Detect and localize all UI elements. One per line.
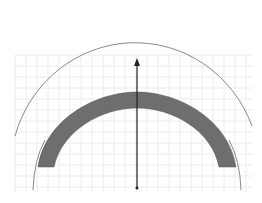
arch-diagram <box>0 0 262 203</box>
axis-origin-dot <box>136 187 139 190</box>
arrow-up-icon <box>134 58 140 66</box>
outer-arc <box>15 43 252 190</box>
diagram-canvas <box>0 0 262 203</box>
background-grid <box>15 55 252 192</box>
